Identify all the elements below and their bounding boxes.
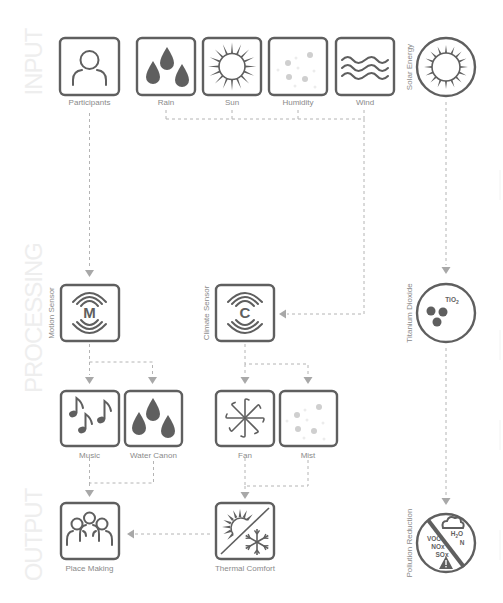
node-label: Music: [79, 451, 100, 460]
section-label-processing: PROCESSING: [20, 243, 47, 393]
connector-fan-merge: [245, 458, 308, 486]
arrow-head: [241, 377, 250, 384]
node-label: Thermal Comfort: [215, 564, 276, 573]
arrow-head: [304, 377, 313, 384]
flow-diagram: INPUT PROCESSING OUTPUT: [0, 0, 503, 603]
node-sun[interactable]: Sun: [203, 38, 261, 107]
sun-core: [219, 54, 245, 80]
node-water-canon[interactable]: Water Canon: [125, 391, 182, 460]
node-participants[interactable]: Participants: [60, 38, 119, 107]
node-label: Motion Sensor: [47, 287, 56, 339]
section-label-input: INPUT: [20, 27, 47, 95]
section-label-output: OUTPUT: [20, 487, 47, 581]
arrow-head: [85, 490, 94, 497]
node-label: Humidity: [282, 98, 313, 107]
node-humidity[interactable]: Humidity: [269, 38, 327, 107]
pollutant-voc: VOC: [427, 535, 441, 542]
arrow-head: [85, 270, 94, 277]
formula-main: TiO: [445, 296, 456, 303]
fan-icon: [226, 399, 264, 437]
pollutant-nox: NOx: [431, 543, 445, 550]
arrow-head: [442, 267, 451, 274]
sun-icon: [208, 43, 256, 91]
node-mist[interactable]: Mist: [280, 391, 337, 460]
node-fan[interactable]: Fan: [216, 391, 274, 460]
node-titanium-dioxide[interactable]: TiO2 Titanium Dioxide: [405, 283, 475, 343]
arrow-head: [148, 377, 157, 384]
node-label: Sun: [225, 98, 239, 107]
node-label: Titanium Dioxide: [405, 283, 414, 343]
sensor-letter: C: [240, 304, 251, 321]
node-climate-sensor[interactable]: C Climate Sensor: [202, 285, 274, 341]
node-label: Mist: [301, 451, 316, 460]
node-label: Water Canon: [130, 451, 177, 460]
sun-circle-icon: [424, 45, 468, 89]
node-thermal-comfort[interactable]: Thermal Comfort: [215, 503, 276, 573]
node-label: Place Making: [65, 564, 113, 573]
node-label: Participants: [69, 98, 111, 107]
sun-core: [432, 53, 460, 81]
product-n: N: [460, 539, 465, 546]
formula-subscript: 2: [456, 299, 459, 305]
node-label: Fan: [238, 451, 252, 460]
arrow-head: [85, 377, 94, 384]
sensor-letter: M: [83, 304, 96, 321]
arrow-head: [442, 498, 451, 505]
node-label: Wind: [356, 98, 374, 107]
arrow-head: [127, 530, 134, 539]
node-place-making[interactable]: Place Making: [61, 503, 119, 573]
pollutant-sox: SOx: [435, 551, 448, 558]
product-o: O: [458, 530, 463, 537]
node-label: Solar Energy: [405, 44, 414, 90]
connector-climate-split: [245, 344, 308, 375]
node-motion-sensor[interactable]: M Motion Sensor: [47, 285, 119, 341]
node-rain[interactable]: Rain: [137, 38, 195, 107]
arrow-head: [241, 492, 250, 499]
node-music[interactable]: Music: [61, 391, 119, 460]
arrow-head: [279, 310, 286, 319]
node-solar-energy[interactable]: Solar Energy: [405, 38, 475, 96]
connector-weather-to-climate: [287, 119, 364, 314]
connector-motion-split: [90, 344, 153, 375]
node-wind[interactable]: Wind: [336, 38, 394, 107]
connector-music-merge: [90, 458, 154, 483]
node-pollution-reduction[interactable]: VOC NOx SOx H2O N Pollution Reduction: [405, 509, 475, 578]
node-label: Climate Sensor: [202, 285, 211, 340]
node-label: Pollution Reduction: [405, 509, 414, 578]
node-label: Rain: [158, 98, 174, 107]
